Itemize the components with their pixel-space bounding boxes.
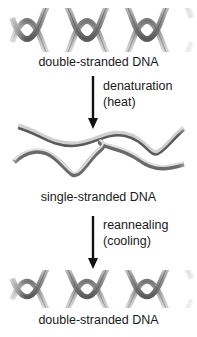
transition-condition: (heat): [103, 94, 173, 110]
stage-label-bottom: double-stranded DNA: [0, 313, 197, 327]
double-helix-icon: [0, 8, 197, 52]
stage-label-top: double-stranded DNA: [0, 55, 197, 69]
double-helix-icon: [0, 270, 197, 308]
transition-name: denaturation: [103, 78, 173, 94]
transition-name: reannealing: [103, 217, 168, 233]
transition-label-denaturation: denaturation (heat): [103, 78, 173, 110]
single-strands-icon: [0, 122, 197, 184]
stage-label-middle: single-stranded DNA: [0, 190, 197, 204]
transition-label-reannealing: reannealing (cooling): [103, 217, 168, 249]
transition-condition: (cooling): [103, 233, 168, 249]
